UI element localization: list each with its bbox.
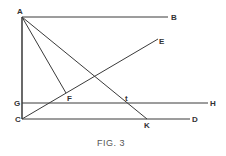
segment-AK — [22, 17, 147, 119]
label-G: G — [14, 99, 20, 108]
label-C: C — [15, 115, 21, 124]
label-E: E — [159, 37, 165, 46]
geometry-figure: A B C D E F G H K t FIG. 3 — [0, 0, 226, 156]
segment-CE — [22, 39, 158, 119]
label-H: H — [210, 99, 216, 108]
segment-AF — [22, 17, 66, 93]
label-K: K — [144, 121, 150, 130]
figure-caption: FIG. 3 — [97, 138, 125, 148]
label-F: F — [67, 94, 72, 103]
label-A: A — [17, 7, 23, 16]
label-t: t — [125, 94, 128, 103]
label-D: D — [192, 115, 198, 124]
label-B: B — [171, 13, 177, 22]
